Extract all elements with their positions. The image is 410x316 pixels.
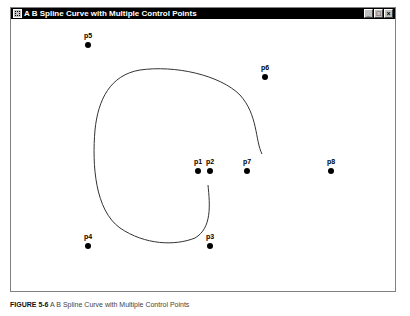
- control-point-label-p7: p7: [243, 158, 251, 165]
- close-button[interactable]: ×: [384, 9, 393, 18]
- maximize-button[interactable]: □: [374, 9, 383, 18]
- control-point-p7[interactable]: [244, 168, 250, 174]
- window-title: A B Spline Curve with Multiple Control P…: [24, 9, 197, 18]
- control-point-label-p2: p2: [206, 158, 214, 165]
- title-bar[interactable]: A B Spline Curve with Multiple Control P…: [11, 8, 395, 19]
- control-point-p3[interactable]: [207, 243, 213, 249]
- control-point-label-p4: p4: [84, 233, 92, 240]
- control-point-label-p6: p6: [261, 64, 269, 71]
- control-point-p4[interactable]: [85, 243, 91, 249]
- app-icon[interactable]: [13, 9, 22, 18]
- figure-caption: FIGURE 5-6 A B Spline Curve with Multipl…: [10, 301, 189, 308]
- control-point-p1[interactable]: [195, 168, 201, 174]
- figure-caption-text: A B Spline Curve with Multiple Control P…: [50, 301, 189, 308]
- control-point-label-p5: p5: [84, 32, 92, 39]
- spline-curve-svg: [11, 19, 397, 293]
- window-controls: _ □ ×: [364, 9, 393, 18]
- b-spline-curve: [94, 69, 262, 243]
- figure-number: FIGURE 5-6: [10, 301, 49, 308]
- minimize-button[interactable]: _: [364, 9, 373, 18]
- control-point-p8[interactable]: [328, 168, 334, 174]
- control-point-p5[interactable]: [85, 42, 91, 48]
- control-point-label-p8: p8: [327, 158, 335, 165]
- control-point-p2[interactable]: [207, 168, 213, 174]
- control-point-label-p1: p1: [194, 158, 202, 165]
- drawing-canvas[interactable]: p1p2p3p4p5p6p7p8: [11, 19, 395, 291]
- control-point-label-p3: p3: [206, 233, 214, 240]
- application-window: A B Spline Curve with Multiple Control P…: [10, 7, 396, 292]
- control-point-p6[interactable]: [262, 74, 268, 80]
